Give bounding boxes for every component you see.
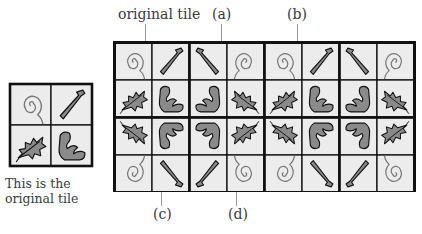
- grid-tile-5: [190, 118, 265, 193]
- cell-background: [115, 43, 153, 81]
- tile-cell: [115, 118, 153, 156]
- tile-cell: [152, 80, 190, 118]
- tile-cell: [152, 118, 190, 156]
- tile-cell: [190, 80, 228, 118]
- cell-background: [227, 43, 265, 81]
- grid-tile-0: [115, 43, 190, 118]
- tile-cell: [190, 155, 228, 192]
- tile-cell: [227, 43, 265, 81]
- tile-cell: [377, 43, 415, 81]
- tile-cell: [340, 43, 378, 81]
- tile-cell: [227, 80, 265, 118]
- tile-cell: [190, 118, 228, 156]
- label-c: (c): [153, 206, 172, 222]
- cell-background: [377, 43, 415, 81]
- tile-cell: [377, 118, 415, 156]
- label-original-tile: original tile: [118, 6, 200, 22]
- tile-cell: [340, 118, 378, 156]
- tile-cell: [152, 43, 190, 81]
- grid-tile-7: [340, 118, 415, 193]
- original-tile-motifs: [10, 84, 92, 166]
- tile-cell: [190, 43, 228, 81]
- leader-original-tile: [145, 24, 146, 42]
- tile-cell: [340, 80, 378, 118]
- tile-cell: [51, 84, 92, 125]
- label-d: (d): [228, 206, 248, 222]
- tile-cell: [115, 155, 153, 192]
- tile-cell: [227, 118, 265, 156]
- tile-cell: [115, 80, 153, 118]
- tile-cell: [115, 43, 153, 81]
- tile-cell: [265, 118, 303, 156]
- grid-tile-2: [265, 43, 340, 118]
- tile-cell: [10, 125, 51, 166]
- tile-cell: [302, 80, 340, 118]
- tile-cell: [227, 155, 265, 192]
- leader-a: [221, 24, 222, 42]
- caption-line-1: This is the: [5, 176, 78, 191]
- leader-d: [236, 190, 237, 206]
- tile-cell: [302, 118, 340, 156]
- tile-cell: [265, 43, 303, 81]
- tile-cell: [152, 155, 190, 192]
- original-tile: [8, 82, 94, 168]
- leader-c: [161, 190, 162, 206]
- tile-cell: [265, 80, 303, 118]
- grid-tile-3: [340, 43, 415, 118]
- tile-grid: [113, 41, 418, 192]
- cell-background: [10, 84, 51, 125]
- grid-tile-6: [265, 118, 340, 193]
- grid-tile-1: [190, 43, 265, 118]
- tile-cell: [377, 155, 415, 192]
- grid-tile-4: [115, 118, 190, 193]
- label-b: (b): [287, 6, 307, 22]
- tile-cell: [265, 155, 303, 192]
- tile-cell: [302, 43, 340, 81]
- tile-cell: [340, 155, 378, 192]
- tile-cell: [302, 155, 340, 192]
- tile-cell: [377, 80, 415, 118]
- label-a: (a): [212, 6, 231, 22]
- original-tile-caption: This is the original tile: [5, 176, 78, 206]
- caption-line-2: original tile: [5, 191, 78, 206]
- tile-cell: [51, 125, 92, 166]
- tile-cell: [10, 84, 51, 125]
- cell-background: [265, 43, 303, 81]
- leader-b: [297, 24, 298, 42]
